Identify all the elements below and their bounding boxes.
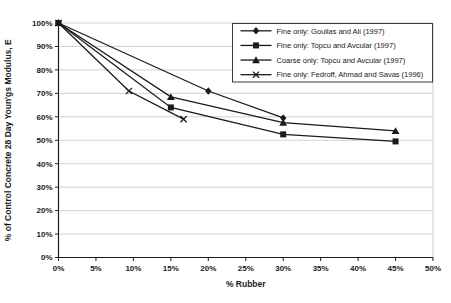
x-tick-label: 5% (90, 264, 102, 273)
y-axis-title: % of Control Concrete 28 Day Youn'gs Mod… (3, 39, 13, 241)
y-tick-label: 0% (41, 253, 53, 262)
x-tick-label: 35% (313, 264, 329, 273)
y-tick-label: 10% (36, 230, 52, 239)
x-axis-title: % Rubber (226, 279, 266, 289)
x-tick-label: 10% (125, 264, 141, 273)
x-tick-label: 45% (388, 264, 404, 273)
x-tick-label: 0% (53, 264, 65, 273)
square-marker-icon (253, 42, 259, 48)
y-tick-label: 60% (36, 113, 52, 122)
y-tick-label: 50% (36, 136, 52, 145)
x-tick-label: 30% (275, 264, 291, 273)
x-tick-label: 25% (238, 264, 254, 273)
y-tick-label: 20% (36, 206, 52, 215)
legend-item-label: Coarse only: Topcu and Avcular (1997) (277, 56, 406, 65)
square-marker-icon (168, 104, 174, 110)
y-tick-label: 90% (36, 42, 52, 51)
x-tick-label: 50% (425, 264, 441, 273)
legend-item-label: Fine only: Goulias and Ali (1997) (277, 27, 386, 36)
y-tick-label: 30% (36, 183, 52, 192)
legend-item-label: Fine only: Topcu and Avcular (1997) (277, 41, 397, 50)
y-tick-label: 40% (36, 160, 52, 169)
y-tick-label: 100% (32, 19, 52, 28)
chart-svg: 0%5%10%15%20%25%30%35%40%45%50%0%10%20%3… (0, 0, 451, 303)
y-tick-label: 70% (36, 89, 52, 98)
x-tick-label: 20% (200, 264, 216, 273)
y-tick-label: 80% (36, 66, 52, 75)
x-tick-label: 40% (350, 264, 366, 273)
legend-item-label: Fine only: Fedroff, Ahmad and Savas (199… (277, 70, 424, 79)
triangle-marker-icon (167, 93, 175, 100)
rubber-modulus-chart-figure: 0%5%10%15%20%25%30%35%40%45%50%0%10%20%3… (0, 0, 451, 303)
x-tick-label: 15% (163, 264, 179, 273)
square-marker-icon (280, 131, 286, 137)
square-marker-icon (393, 138, 399, 144)
